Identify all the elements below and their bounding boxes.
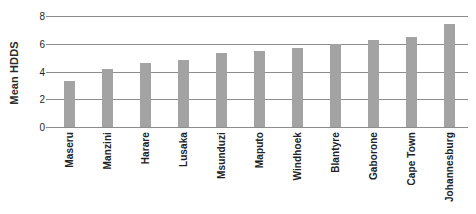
x-axis-label-slot: Harare [126,130,164,210]
bar-slot [50,16,88,127]
x-axis-category-label: Cape Town [406,132,417,186]
bar-slot [392,16,430,127]
x-axis-category-label: Maseru [64,132,75,168]
bar-slot [240,16,278,127]
x-axis-label-slot: Cape Town [392,130,430,210]
bar-slot [126,16,164,127]
x-axis-line [50,127,468,128]
bar-series [50,16,468,127]
x-axis-category-label: Gaborone [368,132,379,180]
bar-slot [430,16,468,127]
bar-slot [202,16,240,127]
bar-chart: Mean HDDS 02468 MaseruManziniHarareLusak… [0,0,476,214]
bar-slot [164,16,202,127]
bar-slot [88,16,126,127]
y-axis-title-label: Mean HDDS [8,41,20,104]
y-axis-tick-label: 0 [39,122,45,133]
bar[interactable] [368,40,379,127]
bar[interactable] [254,51,265,127]
x-axis-category-label: Windhoek [292,132,303,181]
x-axis-label-slot: Blantyre [316,130,354,210]
x-axis-label-slot: Maseru [50,130,88,210]
x-axis-category-label: Msunduzi [216,132,227,179]
x-axis-label-slot: Manzini [88,130,126,210]
y-axis-tick-label: 2 [39,94,45,105]
x-axis-label-slot: Maputo [240,130,278,210]
x-axis-label-slot: Johannesburg [430,130,468,210]
bar[interactable] [140,63,151,127]
x-axis-category-label: Harare [140,132,151,164]
bar[interactable] [102,69,113,127]
x-axis-label-slot: Lusaka [164,130,202,210]
bar[interactable] [64,81,75,127]
y-axis-tick-label: 4 [39,66,45,77]
bar[interactable] [178,60,189,127]
bar[interactable] [406,37,417,127]
x-axis-label-slot: Windhoek [278,130,316,210]
chart-title-remnant [0,0,476,4]
bar[interactable] [330,44,341,127]
x-axis-category-label: Johannesburg [444,132,455,202]
x-axis-label-slot: Msunduzi [202,130,240,210]
x-axis-category-label: Blantyre [330,132,341,173]
y-axis-title: Mean HDDS [2,18,26,128]
x-axis-category-label: Lusaka [178,132,189,167]
bar[interactable] [216,53,227,127]
x-axis-category-label: Maputo [254,132,265,168]
bar-slot [278,16,316,127]
x-axis-category-label: Manzini [102,132,113,169]
bar[interactable] [444,24,455,127]
bar-slot [316,16,354,127]
bar[interactable] [292,48,303,127]
y-axis-tick-label: 8 [39,11,45,22]
bar-slot [354,16,392,127]
x-axis-label-slot: Gaborone [354,130,392,210]
y-axis-tick-label: 6 [39,38,45,49]
x-axis-category-labels: MaseruManziniHarareLusakaMsunduziMaputoW… [50,130,468,210]
plot-area: 02468 [50,16,468,128]
